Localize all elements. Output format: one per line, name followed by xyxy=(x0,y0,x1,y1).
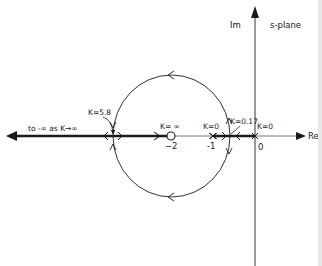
asymptote-label: to -∞ as K→∞ xyxy=(28,124,78,133)
pole-minus1-k-label: K=0 xyxy=(203,122,219,131)
to-minus-infinity-arrow-icon xyxy=(6,131,17,141)
real-axis-arrow-icon xyxy=(296,132,306,140)
break-in-annotation: K=5.8 xyxy=(88,108,115,134)
zero-k-label: K= ∞ xyxy=(160,122,180,131)
page-edge xyxy=(318,0,322,266)
pole-0-tick-label: 0 xyxy=(258,142,263,152)
pole-minus1-tick-label: -1 xyxy=(207,141,215,151)
imag-axis-arrow-icon xyxy=(251,6,259,18)
s-plane-label: s-plane xyxy=(270,20,301,30)
breakaway-label: K=0.17 xyxy=(230,117,258,126)
zero-tick-label: −2 xyxy=(165,141,178,151)
imag-axis-label: Im xyxy=(230,20,241,30)
break-in-label: K=5.8 xyxy=(88,108,111,117)
pole-0-k-label: K=0 xyxy=(257,122,273,131)
root-locus-diagram: Im s-plane Re xyxy=(0,0,322,266)
breakaway-annotation: K=0.17 xyxy=(230,117,258,134)
